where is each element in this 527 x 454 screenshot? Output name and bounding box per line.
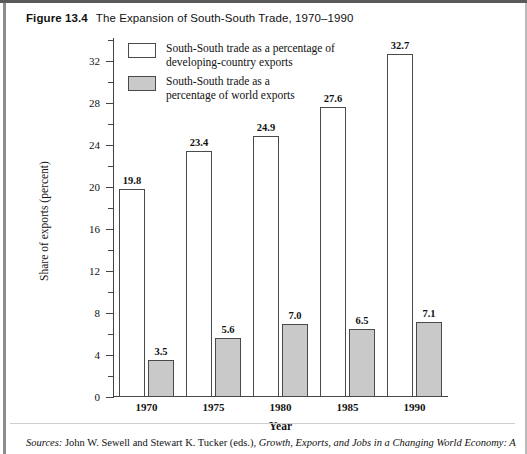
y-tick-major bbox=[106, 103, 114, 104]
legend-item: South-South trade as a percentage of wor… bbox=[128, 75, 335, 102]
y-tick-minor bbox=[108, 334, 114, 335]
figure-title: The Expansion of South-South Trade, 1970… bbox=[96, 12, 354, 24]
y-tick-minor bbox=[108, 208, 114, 209]
bar bbox=[215, 338, 241, 397]
bar bbox=[416, 322, 442, 397]
y-tick-label: 24 bbox=[76, 139, 100, 151]
figure-number: Figure 13.4 bbox=[26, 12, 88, 24]
y-tick-major bbox=[106, 271, 114, 272]
bar bbox=[119, 189, 145, 397]
bar bbox=[349, 329, 375, 397]
y-axis-title: Share of exports (percent) bbox=[38, 156, 50, 286]
y-tick-major bbox=[106, 187, 114, 188]
y-tick-label: 28 bbox=[76, 97, 100, 109]
bar-value-label: 24.9 bbox=[247, 122, 285, 133]
legend-swatch-gray bbox=[128, 76, 156, 91]
figure-container: Figure 13.4The Expansion of South-South … bbox=[0, 0, 527, 454]
y-tick-major bbox=[106, 229, 114, 230]
legend-label: South-South trade as a percentage of wor… bbox=[166, 75, 295, 102]
x-tick-label: 1975 bbox=[180, 401, 247, 413]
y-tick-major bbox=[106, 61, 114, 62]
bar-value-label: 3.5 bbox=[142, 346, 180, 357]
source-note: Sources: John W. Sewell and Stewart K. T… bbox=[26, 436, 516, 449]
bar-value-label: 7.1 bbox=[410, 308, 448, 319]
y-tick-major bbox=[106, 397, 114, 398]
bar-value-label: 32.7 bbox=[381, 40, 419, 51]
legend-swatch-white bbox=[128, 43, 156, 58]
footer-divider bbox=[10, 423, 515, 424]
y-tick-minor bbox=[108, 292, 114, 293]
bar bbox=[253, 136, 279, 397]
y-tick-minor bbox=[108, 166, 114, 167]
bar bbox=[148, 360, 174, 397]
x-tick-label: 1980 bbox=[247, 401, 314, 413]
y-tick-label: 4 bbox=[76, 349, 100, 361]
source-prefix: Sources: bbox=[26, 437, 62, 448]
y-tick-major bbox=[106, 355, 114, 356]
y-tick-label: 12 bbox=[76, 265, 100, 277]
y-tick-major bbox=[106, 145, 114, 146]
source-work-title: Growth, Exports, and Jobs in a Changing … bbox=[259, 437, 516, 448]
legend-item: South-South trade as a percentage of dev… bbox=[128, 42, 335, 69]
y-tick-label: 0 bbox=[76, 391, 100, 403]
bar bbox=[282, 324, 308, 397]
y-tick-minor bbox=[108, 40, 114, 41]
bar-value-label: 5.6 bbox=[209, 324, 247, 335]
x-tick-label: 1990 bbox=[381, 401, 448, 413]
bar bbox=[186, 151, 212, 397]
bar bbox=[387, 54, 413, 397]
x-axis-title: Year bbox=[113, 420, 448, 432]
figure-caption: Figure 13.4The Expansion of South-South … bbox=[26, 12, 354, 24]
x-tick-label: 1985 bbox=[314, 401, 381, 413]
x-tick-label: 1970 bbox=[113, 401, 180, 413]
y-tick-major bbox=[106, 313, 114, 314]
y-tick-label: 20 bbox=[76, 181, 100, 193]
y-tick-minor bbox=[108, 376, 114, 377]
y-tick-label: 16 bbox=[76, 223, 100, 235]
y-tick-label: 8 bbox=[76, 307, 100, 319]
y-tick-minor bbox=[108, 82, 114, 83]
page-border-top bbox=[0, 0, 527, 3]
bar bbox=[320, 107, 346, 397]
bar-value-label: 23.4 bbox=[180, 137, 218, 148]
legend-label: South-South trade as a percentage of dev… bbox=[166, 42, 335, 69]
bar-value-label: 6.5 bbox=[343, 315, 381, 326]
chart-legend: South-South trade as a percentage of dev… bbox=[128, 42, 335, 108]
chart-plot-region: 048121620242832 Share of exports (percen… bbox=[0, 30, 527, 415]
y-tick-label: 32 bbox=[76, 55, 100, 67]
y-tick-minor bbox=[108, 250, 114, 251]
bar-value-label: 19.8 bbox=[113, 175, 151, 186]
y-tick-minor bbox=[108, 124, 114, 125]
source-authors: John W. Sewell and Stewart K. Tucker (ed… bbox=[62, 437, 258, 448]
bar-value-label: 7.0 bbox=[276, 310, 314, 321]
